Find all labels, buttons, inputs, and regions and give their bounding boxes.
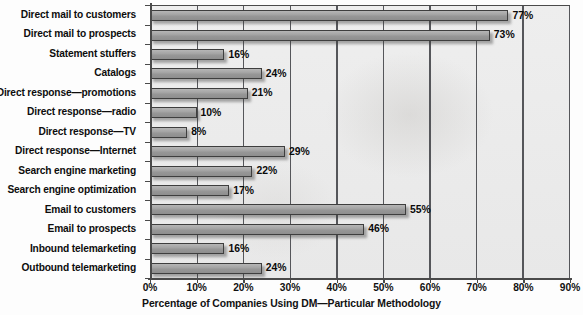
bar-value-label: 10% — [201, 108, 222, 118]
bar: 77% — [150, 10, 508, 21]
bar-value-label: 24% — [266, 263, 287, 273]
category-label: Email to customers — [0, 200, 143, 220]
category-tick — [145, 5, 150, 6]
category-tick — [145, 142, 150, 143]
bar-series: 77%73%16%24%21%10%8%29%22%17%55%46%16%24… — [150, 6, 569, 278]
bar: 10% — [150, 107, 197, 118]
value-tick-label: 60% — [420, 283, 440, 293]
value-tick-label: 80% — [513, 283, 533, 293]
category-label: Direct response—TV — [0, 122, 143, 142]
category-label: Inbound telemarketing — [0, 239, 143, 259]
bar-value-label: 17% — [233, 185, 254, 195]
category-label: Search engine marketing — [0, 161, 143, 181]
bar-value-label: 24% — [266, 69, 287, 79]
category-label: Direct response—promotions — [0, 83, 143, 103]
bar: 8% — [150, 127, 187, 138]
bar-value-label: 73% — [494, 30, 515, 40]
bar-row: 16% — [150, 239, 569, 258]
value-tick-label: 20% — [233, 283, 253, 293]
category-tick — [145, 220, 150, 221]
category-tick — [145, 64, 150, 65]
category-tick — [145, 161, 150, 162]
gridline — [569, 6, 570, 278]
bar-value-label: 16% — [228, 49, 249, 59]
bar-value-label: 22% — [256, 166, 277, 176]
value-tick-label: 0% — [143, 283, 158, 293]
x-axis-title: Percentage of Companies Using DM—Particu… — [0, 299, 583, 309]
bar: 21% — [150, 88, 248, 99]
bar-value-label: 77% — [512, 11, 533, 21]
bar: 17% — [150, 185, 229, 196]
value-axis-tick-labels: 0%10%20%30%40%50%60%70%80%90% — [150, 283, 570, 297]
category-axis-labels: Direct mail to customersDirect mail to p… — [0, 5, 143, 278]
bar: 24% — [150, 68, 262, 79]
category-label: Search engine optimization — [0, 181, 143, 201]
value-axis-line — [148, 278, 572, 280]
bar-row: 55% — [150, 200, 569, 219]
bar: 55% — [150, 204, 406, 215]
bar: 73% — [150, 30, 490, 41]
category-label: Statement stuffers — [0, 44, 143, 64]
bar-row: 73% — [150, 25, 569, 44]
bar-row: 8% — [150, 123, 569, 142]
bar-value-label: 55% — [410, 205, 431, 215]
category-axis-line — [150, 3, 152, 280]
value-tick-label: 10% — [186, 283, 206, 293]
category-tick — [145, 44, 150, 45]
bar: 16% — [150, 49, 224, 60]
bar: 24% — [150, 263, 262, 274]
bar-row: 10% — [150, 103, 569, 122]
bar: 29% — [150, 146, 285, 157]
bar-row: 16% — [150, 45, 569, 64]
bar-value-label: 29% — [289, 146, 310, 156]
value-tick-label: 30% — [280, 283, 300, 293]
category-tick — [145, 83, 150, 84]
category-tick — [145, 122, 150, 123]
bar-value-label: 8% — [191, 127, 206, 137]
bar-chart: Direct mail to customersDirect mail to p… — [0, 0, 583, 315]
bar-row: 17% — [150, 181, 569, 200]
category-label: Direct mail to prospects — [0, 25, 143, 45]
category-label: Direct response—radio — [0, 103, 143, 123]
category-tick — [145, 25, 150, 26]
bar-row: 77% — [150, 6, 569, 25]
bar: 22% — [150, 166, 252, 177]
plot-area: 77%73%16%24%21%10%8%29%22%17%55%46%16%24… — [150, 5, 570, 278]
category-label: Direct response—Internet — [0, 142, 143, 162]
category-label: Catalogs — [0, 64, 143, 84]
bar-value-label: 21% — [252, 88, 273, 98]
category-label: Outbound telemarketing — [0, 259, 143, 279]
value-tick-label: 90% — [560, 283, 580, 293]
category-tick — [145, 259, 150, 260]
bar-row: 21% — [150, 84, 569, 103]
category-tick — [145, 200, 150, 201]
bar-row: 24% — [150, 258, 569, 277]
value-tick-label: 50% — [373, 283, 393, 293]
category-tick — [145, 103, 150, 104]
bar-row: 24% — [150, 64, 569, 83]
category-label: Direct mail to customers — [0, 5, 143, 25]
bar-row: 29% — [150, 142, 569, 161]
bar-row: 22% — [150, 161, 569, 180]
bar: 16% — [150, 243, 224, 254]
value-tick-label: 40% — [326, 283, 346, 293]
bar-value-label: 16% — [228, 244, 249, 254]
category-tick — [145, 239, 150, 240]
category-tick — [145, 181, 150, 182]
bar-row: 46% — [150, 220, 569, 239]
value-tick-label: 70% — [466, 283, 486, 293]
category-label: Email to prospects — [0, 220, 143, 240]
bar: 46% — [150, 224, 364, 235]
bar-value-label: 46% — [368, 224, 389, 234]
